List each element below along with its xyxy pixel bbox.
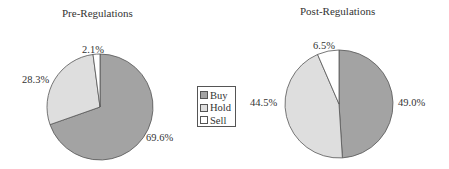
buy-swatch-icon bbox=[200, 91, 208, 99]
pre-buy-label: 69.6% bbox=[146, 132, 173, 143]
pie-charts bbox=[0, 0, 449, 169]
hold-swatch-icon bbox=[200, 104, 208, 112]
legend-item-sell: Sell bbox=[200, 114, 235, 127]
sell-swatch-icon bbox=[200, 116, 208, 124]
legend: Buy Hold Sell bbox=[197, 86, 236, 127]
post-regulations-pie bbox=[285, 50, 393, 158]
pre-hold-label: 28.3% bbox=[22, 74, 49, 85]
post-buy-label: 49.0% bbox=[398, 97, 425, 108]
legend-label-sell: Sell bbox=[210, 115, 226, 126]
pre-sell-label: 2.1% bbox=[82, 44, 104, 55]
pie-slice-buy bbox=[339, 50, 393, 158]
post-sell-label: 6.5% bbox=[313, 40, 335, 51]
legend-item-hold: Hold bbox=[200, 102, 235, 115]
legend-label-hold: Hold bbox=[210, 102, 231, 113]
pre-regulations-pie bbox=[47, 54, 153, 160]
post-hold-label: 44.5% bbox=[250, 97, 277, 108]
legend-label-buy: Buy bbox=[210, 90, 228, 101]
legend-item-buy: Buy bbox=[200, 89, 235, 102]
